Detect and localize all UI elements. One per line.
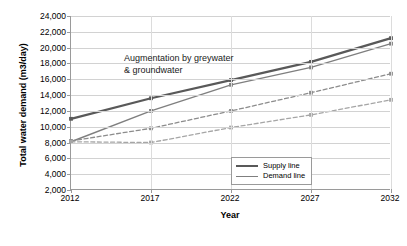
y-tick-label: 12,000 (40, 107, 66, 116)
y-tick-mark (67, 79, 71, 80)
y-tick-mark (67, 16, 71, 17)
y-tick-label: 18,000 (40, 59, 66, 68)
x-tick-label: 2017 (141, 194, 160, 203)
legend-swatch-icon (236, 165, 258, 167)
x-tick-label: 2022 (221, 194, 240, 203)
y-tick-mark (67, 111, 71, 112)
legend-swatch-icon (236, 176, 258, 177)
data-point-marker (69, 117, 73, 121)
gridline-vertical (151, 16, 152, 189)
y-tick-label: 10,000 (40, 122, 66, 131)
legend-label: Supply line (263, 161, 300, 171)
y-tick-mark (67, 95, 71, 96)
x-tick-label: 2032 (381, 194, 400, 203)
y-tick-mark (67, 143, 71, 144)
y-tick-label: 20,000 (40, 43, 66, 52)
x-axis-tick-labels: 20122017202220272032 (70, 194, 390, 208)
y-axis-tick-labels: 2,0004,0006,0008,00010,00012,00014,00016… (18, 16, 66, 190)
y-tick-mark (67, 32, 71, 33)
y-tick-mark (67, 63, 71, 64)
x-axis-title: Year (70, 210, 390, 220)
y-tick-label: 6,000 (45, 154, 66, 163)
y-tick-label: 16,000 (40, 75, 66, 84)
legend-item[interactable]: Supply line (236, 161, 305, 171)
y-tick-mark (67, 48, 71, 49)
y-tick-mark (67, 174, 71, 175)
legend-item[interactable]: Demand line (236, 171, 305, 181)
gridline-vertical (391, 16, 392, 189)
y-tick-label: 14,000 (40, 91, 66, 100)
y-tick-label: 22,000 (40, 28, 66, 37)
y-tick-label: 8,000 (45, 138, 66, 147)
y-tick-mark (67, 127, 71, 128)
chart-annotation: Augmentation by greywater & groundwater (124, 52, 234, 76)
water-demand-line-chart: Total water demand (m3/day) 2,0004,0006,… (0, 0, 407, 246)
x-tick-label: 2012 (61, 194, 80, 203)
y-tick-label: 4,000 (45, 170, 66, 179)
plot-area (70, 16, 390, 190)
x-tick-label: 2027 (301, 194, 320, 203)
chart-legend: Supply lineDemand line (231, 157, 312, 185)
legend-label: Demand line (263, 171, 305, 181)
y-tick-label: 24,000 (40, 12, 66, 21)
y-tick-mark (67, 158, 71, 159)
